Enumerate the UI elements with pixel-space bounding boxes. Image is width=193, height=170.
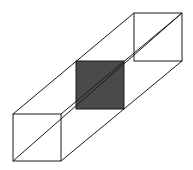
back-face: [134, 13, 182, 61]
space-diagonal: [13, 13, 182, 161]
prism-svg: [0, 0, 193, 170]
prism-diagram: [0, 0, 193, 170]
front-face: [13, 114, 61, 161]
